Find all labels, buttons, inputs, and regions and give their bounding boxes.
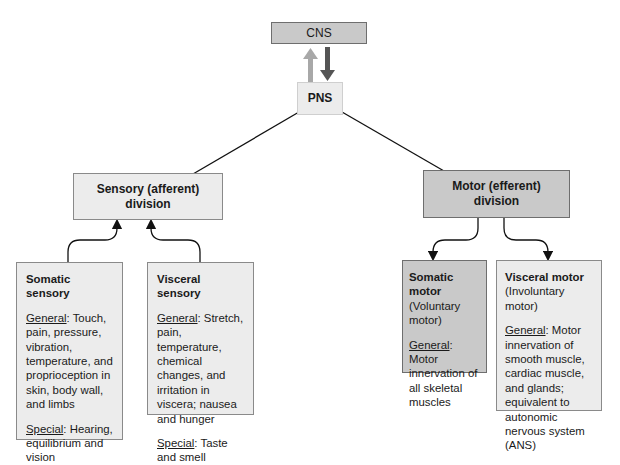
sensory-division-label-line2: division	[125, 197, 170, 212]
visceral-motor-subtitle: (Involuntary motor)	[505, 285, 565, 311]
somatic-motor-heading: Somatic motor(Voluntary motor)	[409, 270, 482, 328]
cns-box: CNS	[271, 22, 367, 44]
sensory-division-label-line1: Sensory (afferent)	[97, 182, 200, 197]
somatic-motor-subtitle: (Voluntary motor)	[409, 300, 460, 326]
visceral-motor-title: Visceral motor	[505, 271, 584, 283]
special-label: Special	[26, 423, 63, 435]
efferent-arrow-icon	[320, 47, 335, 81]
somatic-sensory-general: General: Touch, pain, pressure, vibratio…	[26, 311, 114, 412]
general-text: : Touch, pain, pressure, vibration, temp…	[26, 312, 113, 410]
visceral-motor-heading: Visceral motor(Involuntary motor)	[505, 270, 597, 313]
sensory-division-box: Sensory (afferent) division	[73, 173, 223, 220]
somatic-sensory-box: Somatic sensory General: Touch, pain, pr…	[16, 262, 123, 440]
visceral-motor-box: Visceral motor(Involuntary motor) Genera…	[496, 260, 602, 411]
cns-label: CNS	[306, 26, 331, 40]
somatic-sensory-special: Special: Hearing, equilibrium and vision	[26, 422, 114, 465]
motor-division-label-line1: Motor (efferent)	[452, 179, 541, 194]
somatic-sensory-title: Somatic sensory	[26, 272, 114, 301]
visceral-sensory-title: Visceral sensory	[157, 272, 245, 301]
somatic-sensory-arrow	[68, 224, 117, 262]
motor-division-label-line2: division	[474, 194, 519, 209]
afferent-arrow-icon	[303, 48, 318, 82]
general-text: : Motor innervation of smooth muscle, ca…	[505, 324, 585, 451]
pns-box: PNS	[297, 82, 343, 115]
somatic-motor-general: General: Motor innervation of all skelet…	[409, 338, 482, 410]
general-text: : Stretch, pain, temperature, chemical c…	[157, 312, 243, 425]
general-label: General	[409, 339, 450, 351]
visceral-motor-arrow	[504, 218, 548, 256]
general-label: General	[157, 312, 198, 324]
motor-division-box: Motor (efferent) division	[423, 170, 570, 218]
special-label: Special	[157, 437, 194, 449]
somatic-motor-box: Somatic motor(Voluntary motor) General: …	[402, 260, 487, 373]
visceral-sensory-box: Visceral sensory General: Stretch, pain,…	[147, 262, 254, 415]
visceral-sensory-arrow	[151, 224, 200, 262]
somatic-motor-arrow	[433, 218, 478, 256]
pns-to-sensory-line	[193, 112, 299, 174]
general-label: General	[505, 324, 546, 336]
visceral-sensory-general: General: Stretch, pain, temperature, che…	[157, 311, 245, 426]
somatic-motor-title: Somatic motor	[409, 271, 453, 297]
pns-to-motor-line	[342, 112, 444, 171]
general-label: General	[26, 312, 67, 324]
pns-label: PNS	[308, 91, 333, 106]
visceral-motor-general: General: Motor innervation of smooth mus…	[505, 323, 597, 453]
visceral-sensory-special: Special: Taste and smell	[157, 436, 245, 465]
